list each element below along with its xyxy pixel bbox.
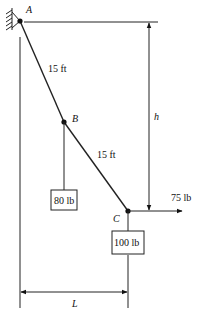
dimension-label-l: L <box>71 298 78 309</box>
label-b: B <box>72 113 78 124</box>
label-a: A <box>25 4 33 15</box>
dimension-label-h: h <box>154 111 159 122</box>
weight-label-b: 80 lb <box>54 195 74 206</box>
length-label-bc: 15 ft <box>97 149 116 160</box>
joint-a <box>17 18 22 23</box>
force-label-c: 75 lb <box>171 192 191 203</box>
length-label-ab: 15 ft <box>48 63 67 74</box>
label-c: C <box>113 213 120 224</box>
wall-support-icon <box>6 8 20 30</box>
cable-diagram: A B C 15 ft 15 ft 80 lb 100 lb 75 lb h L <box>0 0 204 322</box>
weight-label-c: 100 lb <box>114 237 139 248</box>
